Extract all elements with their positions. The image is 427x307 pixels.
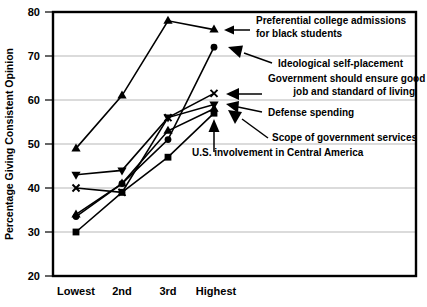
y-tick-marks <box>45 12 52 276</box>
annotation-government-job-line1: Government should ensure good <box>268 73 425 84</box>
x-tick-3rd: 3rd <box>159 285 176 297</box>
annotation-ideological: Ideological self-placement <box>278 58 404 69</box>
annotation-scope-gov-services: Scope of government services <box>272 132 417 143</box>
series-ideological-self-placement <box>73 44 218 220</box>
x-tick-highest: Highest <box>196 285 237 297</box>
chart-figure: 80 70 60 50 40 30 20 Percentage Giving C… <box>0 0 427 307</box>
y-axis-ticks: 80 70 60 50 40 30 20 <box>28 6 40 282</box>
series-defense-spending <box>71 101 218 179</box>
y-tick-70: 70 <box>28 50 40 62</box>
y-tick-50: 50 <box>28 138 40 150</box>
y-tick-20: 20 <box>28 270 40 282</box>
x-tick-2nd: 2nd <box>112 285 132 297</box>
x-axis-ticks: Lowest 2nd 3rd Highest <box>57 285 236 297</box>
line-chart-svg: 80 70 60 50 40 30 20 Percentage Giving C… <box>0 0 427 307</box>
annotation-preferential-line2: for black students <box>256 28 343 39</box>
annotation-preferential-line1: Preferential college admissions <box>256 15 406 26</box>
y-tick-40: 40 <box>28 182 40 194</box>
y-tick-60: 60 <box>28 94 40 106</box>
annotation-defense-spending: Defense spending <box>268 107 354 118</box>
annotation-labels: Preferential college admissions for blac… <box>192 15 425 158</box>
y-axis-title: Percentage Giving Consistent Opinion <box>3 48 15 240</box>
x-tick-lowest: Lowest <box>57 285 95 297</box>
y-tick-80: 80 <box>28 6 40 18</box>
y-tick-30: 30 <box>28 226 40 238</box>
annotation-government-job-line2: job and standard of living <box>292 86 415 97</box>
annotation-arrows <box>209 26 273 153</box>
annotation-us-central-america: U.S. involvement in Central America <box>192 147 364 158</box>
